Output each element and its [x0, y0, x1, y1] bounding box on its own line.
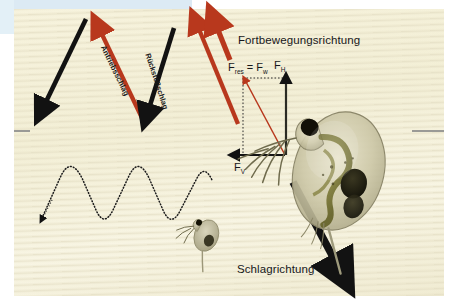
force-v-subscript: V: [241, 168, 245, 175]
figure-canvas: Fortbewegungsrichtung Schlagrichtung Ant…: [0, 0, 458, 304]
force-v-symbol: F: [234, 161, 241, 173]
stroke-arrow-black-1: [42, 19, 86, 110]
force-h-subscript: H: [281, 66, 286, 73]
label-force-resultant: Fres = Fw: [228, 61, 268, 75]
daphnia-small: [167, 211, 223, 273]
force-res-symbol: F: [228, 61, 235, 73]
swim-track-dotted: [42, 167, 212, 220]
force-res-equals: =: [247, 61, 253, 73]
force-res-subscript-2: w: [263, 68, 268, 75]
stroke-arrow-red-3: [214, 20, 230, 60]
label-stroke-direction: Schlagrichtung: [237, 263, 314, 275]
force-res-subscript: res: [235, 68, 244, 75]
label-direction-of-travel: Fortbewegungsrichtung: [238, 34, 360, 46]
label-force-vertical: FV: [234, 161, 245, 175]
label-force-horizontal: FH: [274, 59, 285, 73]
force-h-symbol: F: [274, 59, 281, 71]
diagram-layer: [0, 0, 458, 304]
